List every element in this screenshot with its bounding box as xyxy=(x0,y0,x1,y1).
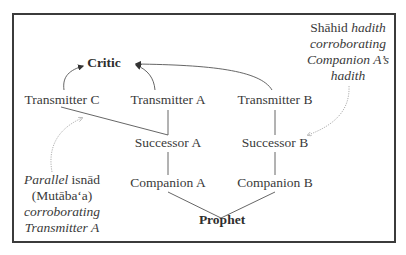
node-critic: Critic xyxy=(87,55,121,70)
node-successor-a: Successor A xyxy=(135,135,201,150)
note-parallel-term: Parallel xyxy=(24,172,68,187)
note-parallel-isnad-word: isnād xyxy=(72,172,101,187)
note-shahid-line3: Companion A’s xyxy=(307,52,389,67)
node-companion-b: Companion B xyxy=(237,175,312,190)
node-companion-a: Companion A xyxy=(130,175,205,190)
note-parallel-isnad: Parallel isnād (Mutāba‘a) corroborating … xyxy=(24,172,100,236)
arrow-transmitter-b-to-critic xyxy=(136,64,272,90)
note-parallel-line4: Transmitter A xyxy=(25,220,99,235)
note-shahid-line4: hadith xyxy=(331,68,366,83)
arrow-transmitter-a-to-critic xyxy=(136,65,155,90)
node-successor-b: Successor B xyxy=(242,135,308,150)
note-shahid-term: Shāhid xyxy=(310,20,348,35)
note-shahid-line2: corroborating xyxy=(310,36,386,51)
node-prophet: Prophet xyxy=(199,212,245,227)
note-shahid: Shāhid hadith corroborating Companion A’… xyxy=(307,20,389,84)
node-transmitter-b: Transmitter B xyxy=(238,92,313,107)
arrow-transmitter-c-to-critic xyxy=(64,66,83,90)
note-parallel-mutaba: (Mutāba‘a) xyxy=(32,188,93,203)
dotted-arrow-shahid xyxy=(308,86,349,135)
node-transmitter-a: Transmitter A xyxy=(131,92,206,107)
note-parallel-line3: corroborating xyxy=(24,204,100,219)
note-shahid-hadith: hadith xyxy=(351,20,386,35)
node-transmitter-c: Transmitter C xyxy=(25,92,100,107)
dotted-arrow-parallel xyxy=(51,118,82,172)
